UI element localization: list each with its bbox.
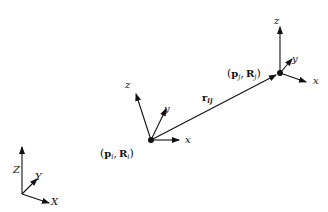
world-frame: Z Y X <box>12 147 59 207</box>
world-y-label: Y <box>35 171 43 182</box>
pose-diagram: rij z y x (pi,Ri) z y x (pj,Rj) Z Y X <box>0 0 328 212</box>
frame-j-y-label: y <box>291 53 298 64</box>
world-x-axis <box>22 194 49 203</box>
frame-j-pose-label: (pj,Rj) <box>227 67 261 81</box>
frame-j-z-label: z <box>273 15 280 26</box>
relative-vector-rij: rij <box>151 75 276 140</box>
frame-j-origin-dot <box>277 70 283 76</box>
frame-i-z-axis <box>136 94 151 140</box>
rij-label: rij <box>202 92 213 105</box>
frame-i-x-label: x <box>185 134 191 145</box>
frame-j-x-label: x <box>313 75 319 86</box>
frame-i-z-label: z <box>124 79 131 90</box>
world-x-label: X <box>50 196 59 207</box>
frame-j-x-axis <box>280 73 306 82</box>
frame-i-origin-dot <box>148 137 154 143</box>
frame-j: z y x (pj,Rj) <box>227 15 319 86</box>
frame-i: z y x (pi,Ri) <box>100 79 191 161</box>
frame-i-pose-label: (pi,Ri) <box>100 147 134 161</box>
world-z-label: Z <box>12 164 21 175</box>
frame-i-y-label: y <box>163 103 170 114</box>
